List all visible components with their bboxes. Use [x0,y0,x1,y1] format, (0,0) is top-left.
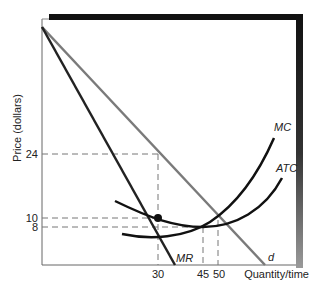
atc-point-marker [154,214,162,222]
mc-curve [122,138,274,237]
guide-lines [42,154,218,265]
y-tick-24: 24 [26,148,38,160]
x-tick-45: 45 [197,268,209,280]
x-tick-50: 50 [213,268,225,280]
y-axis-title: Price (dollars) [11,94,23,162]
d-label: d [268,251,275,263]
x-axis-title: Quantity/time [244,268,309,280]
monopolistic-competition-chart: MC ATC MR d 24 10 8 30 45 50 Quantity/ti… [0,0,317,287]
x-tick-30: 30 [152,268,164,280]
mc-label: MC [274,121,291,133]
frame-top-bar [49,14,303,20]
mr-label: MR [176,252,193,264]
atc-label: ATC [275,162,297,174]
demand-curve [42,27,265,265]
frame-side-bar [296,14,303,268]
y-tick-8: 8 [32,221,38,233]
